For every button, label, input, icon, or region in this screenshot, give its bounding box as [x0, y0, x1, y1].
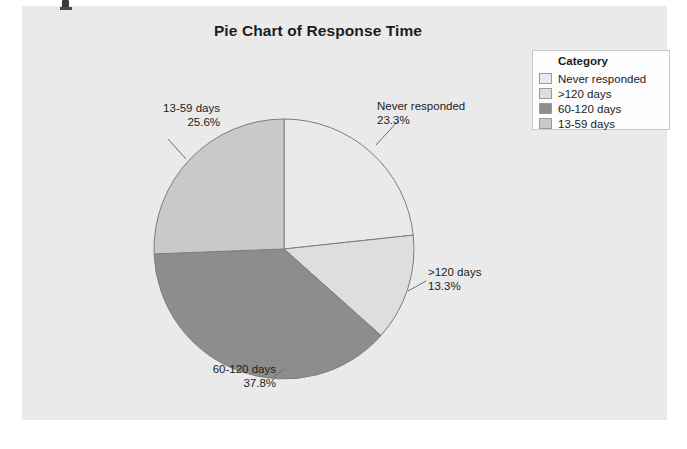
legend-label-13-59-days: 13-59 days: [558, 118, 615, 130]
pie-slice-13-59-days: [154, 119, 284, 254]
legend-row-60-120-days: 60-120 days: [539, 101, 665, 116]
page-artifact-mark-underline: [60, 7, 72, 10]
legend-box: Category Never responded>120 days60-120 …: [532, 50, 670, 130]
legend-row-13-59-days: 13-59 days: [539, 116, 665, 131]
leader-line-13-59: [168, 139, 186, 159]
chart-page: Pie Chart of Response Time Never respond…: [0, 0, 687, 449]
pie-label-gt120-days-name: >120 days: [428, 265, 481, 279]
legend-label-120-days: >120 days: [558, 88, 611, 100]
pie-label-gt120-days-percent: 13.3%: [428, 279, 481, 293]
pie-slice-never-responded: [284, 119, 413, 249]
legend-items: Never responded>120 days60-120 days13-59…: [539, 71, 665, 131]
legend-row-never-responded: Never responded: [539, 71, 665, 86]
legend-row-120-days: >120 days: [539, 86, 665, 101]
legend-swatch-13-59-days: [539, 118, 552, 129]
pie-label-gt120-days: >120 days 13.3%: [428, 265, 481, 293]
pie-svg: [150, 115, 418, 383]
pie-label-13-59-days: 13-59 days 25.6%: [104, 101, 220, 129]
pie-label-60-120-days: 60-120 days 37.8%: [150, 362, 276, 390]
legend-swatch-never-responded: [539, 73, 552, 84]
pie-label-never-responded-percent: 23.3%: [377, 113, 465, 127]
pie-label-13-59-days-percent: 25.6%: [104, 115, 220, 129]
chart-title: Pie Chart of Response Time: [168, 22, 468, 40]
plot-legend-divider: [518, 14, 519, 412]
legend-swatch-60-120-days: [539, 103, 552, 114]
pie-chart: [150, 115, 418, 383]
pie-label-13-59-days-name: 13-59 days: [104, 101, 220, 115]
legend-swatch-120-days: [539, 88, 552, 99]
legend-label-60-120-days: 60-120 days: [558, 103, 621, 115]
pie-label-never-responded-name: Never responded: [377, 99, 465, 113]
pie-label-never-responded: Never responded 23.3%: [377, 99, 465, 127]
pie-label-60-120-days-percent: 37.8%: [150, 376, 276, 390]
legend-title: Category: [558, 55, 608, 67]
pie-label-60-120-days-name: 60-120 days: [150, 362, 276, 376]
legend-label-never-responded: Never responded: [558, 73, 646, 85]
